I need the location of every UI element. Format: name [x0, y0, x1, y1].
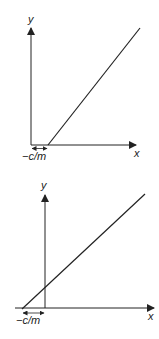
x-axis-label: x [133, 147, 140, 159]
intercept-label: −c/m [22, 150, 46, 162]
y-axis-label: y [27, 13, 35, 25]
x-axis-label: x [147, 310, 154, 322]
plot-line [22, 194, 145, 309]
diagram-top: y x −c/m [22, 13, 140, 162]
y-axis-label: y [40, 179, 48, 191]
plot-line [48, 28, 140, 145]
intercept-label: −c/m [16, 314, 40, 326]
diagram-bottom: y x −c/m [15, 179, 154, 326]
diagram-canvas: y x −c/m y x −c/m [0, 0, 159, 339]
